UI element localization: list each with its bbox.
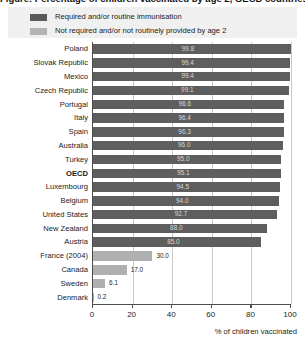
bar-value-label: 17.0 bbox=[131, 266, 143, 274]
legend-label-not-required: Not required and/or not routinely provid… bbox=[55, 27, 226, 35]
bar-row[interactable]: 96.3 bbox=[93, 126, 291, 137]
bar-row[interactable]: 85.0 bbox=[93, 236, 291, 247]
bar-row[interactable]: 17.0 bbox=[93, 264, 291, 275]
bar-row[interactable]: 96.6 bbox=[93, 99, 291, 110]
plot-area: 99.899.499.499.196.696.496.396.095.095.1… bbox=[92, 42, 291, 304]
x-tick-60 bbox=[211, 304, 212, 308]
category-label-turkey: Turkey bbox=[0, 155, 88, 164]
bar-value-label: 99.8 bbox=[182, 45, 194, 53]
bar-row[interactable]: 99.1 bbox=[93, 85, 291, 96]
x-axis-title: % of children vaccinated bbox=[0, 327, 297, 336]
x-tick-0 bbox=[92, 304, 93, 308]
bar-row[interactable]: 6.1 bbox=[93, 278, 291, 289]
bar-value-label: 99.4 bbox=[181, 72, 193, 80]
category-label-portugal: Portugal bbox=[0, 100, 88, 109]
x-tick-40 bbox=[171, 304, 172, 308]
category-label-czech-republic: Czech Republic bbox=[0, 86, 88, 95]
category-label-canada: Canada bbox=[0, 265, 88, 274]
legend-swatch-dark-icon bbox=[30, 14, 47, 21]
category-label-new-zealand: New Zealand bbox=[0, 224, 88, 233]
bar-value-label: 96.0 bbox=[178, 141, 190, 149]
bar-value-label: 95.0 bbox=[177, 155, 189, 163]
category-label-australia: Australia bbox=[0, 141, 88, 150]
x-axis-line bbox=[92, 304, 291, 305]
page-title: Figure: Percentage of children vaccinate… bbox=[0, 0, 305, 4]
bar-row[interactable]: 88.0 bbox=[93, 223, 291, 234]
bar-value-label: 96.4 bbox=[178, 114, 190, 122]
bar-row[interactable]: 96.4 bbox=[93, 112, 291, 123]
bar-value-label: 0.2 bbox=[97, 293, 106, 301]
legend-item-required: Required and/or routine immunisation bbox=[30, 11, 297, 23]
bar-row[interactable]: 96.0 bbox=[93, 140, 291, 151]
bar-value-label: 6.1 bbox=[109, 279, 118, 287]
chart-title-strip: Figure: Percentage of children vaccinate… bbox=[0, 0, 305, 5]
bar-sweden[interactable] bbox=[93, 279, 105, 289]
bar-value-label: 92.7 bbox=[175, 210, 187, 218]
bar-row[interactable]: 94.0 bbox=[93, 195, 291, 206]
bar-denmark[interactable] bbox=[93, 293, 94, 303]
legend-item-not-required: Not required and/or not routinely provid… bbox=[30, 25, 297, 37]
category-label-sweden: Sweden bbox=[0, 279, 88, 288]
bar-row[interactable]: 99.4 bbox=[93, 57, 291, 68]
category-label-united-states: United States bbox=[0, 210, 88, 219]
bar-value-label: 94.5 bbox=[177, 183, 189, 191]
x-tick-80 bbox=[250, 304, 251, 308]
legend-label-required: Required and/or routine immunisation bbox=[55, 13, 182, 21]
category-label-belgium: Belgium bbox=[0, 196, 88, 205]
category-label-luxembourg: Luxembourg bbox=[0, 182, 88, 191]
category-label-slovak-republic: Slovak Republic bbox=[0, 58, 88, 67]
bar-value-label: 99.1 bbox=[181, 86, 193, 94]
x-tick-label-60: 60 bbox=[206, 310, 215, 320]
legend-swatch-light-icon bbox=[30, 28, 47, 35]
bar-row[interactable]: 99.4 bbox=[93, 71, 291, 82]
x-tick-label-100: 100 bbox=[283, 310, 296, 320]
x-tick-label-40: 40 bbox=[167, 310, 176, 320]
x-tick-label-80: 80 bbox=[246, 310, 255, 320]
bar-france-2004[interactable] bbox=[93, 251, 152, 261]
category-label-austria: Austria bbox=[0, 237, 88, 246]
category-axis-labels: PolandSlovak RepublicMexicoCzech Republi… bbox=[0, 42, 88, 304]
bar-row[interactable]: 0.2 bbox=[93, 292, 291, 303]
category-label-france-2004: France (2004) bbox=[0, 251, 88, 260]
category-label-mexico: Mexico bbox=[0, 72, 88, 81]
bar-value-label: 96.3 bbox=[178, 128, 190, 136]
x-tick-20 bbox=[132, 304, 133, 308]
category-label-spain: Spain bbox=[0, 127, 88, 136]
x-tick-label-20: 20 bbox=[127, 310, 136, 320]
bar-value-label: 94.0 bbox=[176, 197, 188, 205]
x-tick-100 bbox=[290, 304, 291, 308]
gridline-100 bbox=[291, 42, 292, 304]
bar-value-label: 95.1 bbox=[177, 169, 189, 177]
bar-value-label: 85.0 bbox=[167, 238, 179, 246]
bar-value-label: 88.0 bbox=[170, 224, 182, 232]
category-label-oecd: OECD bbox=[0, 169, 88, 178]
bar-row[interactable]: 99.8 bbox=[93, 43, 291, 54]
vaccination-bar-chart: Figure: Percentage of children vaccinate… bbox=[0, 0, 305, 349]
chart-legend: Required and/or routine immunisation Not… bbox=[8, 7, 297, 38]
bar-value-label: 99.4 bbox=[181, 59, 193, 67]
bar-row[interactable]: 94.5 bbox=[93, 181, 291, 192]
bar-row[interactable]: 30.0 bbox=[93, 250, 291, 261]
bar-value-label: 30.0 bbox=[156, 252, 168, 260]
bar-row[interactable]: 95.1 bbox=[93, 168, 291, 179]
category-label-poland: Poland bbox=[0, 44, 88, 53]
bar-rows: 99.899.499.499.196.696.496.396.095.095.1… bbox=[93, 42, 291, 304]
category-label-denmark: Denmark bbox=[0, 293, 88, 302]
bar-value-label: 96.6 bbox=[179, 100, 191, 108]
category-label-italy: Italy bbox=[0, 113, 88, 122]
bar-canada[interactable] bbox=[93, 265, 127, 275]
bar-row[interactable]: 92.7 bbox=[93, 209, 291, 220]
x-tick-label-0: 0 bbox=[90, 310, 94, 320]
bar-row[interactable]: 95.0 bbox=[93, 154, 291, 165]
